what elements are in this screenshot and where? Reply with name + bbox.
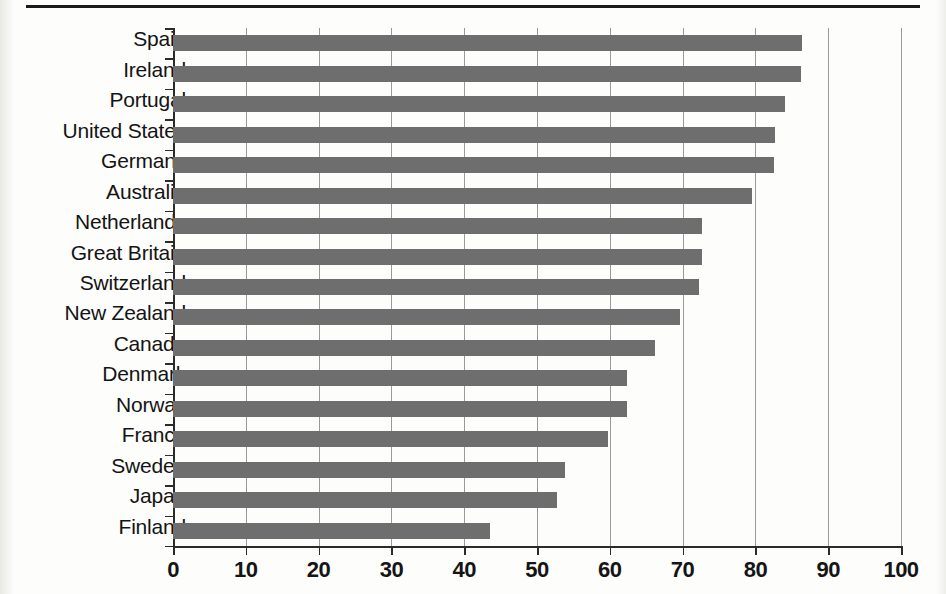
- page-edge-left: [0, 0, 14, 594]
- bar: [173, 431, 608, 447]
- bar: [173, 249, 702, 265]
- x-axis-tick-80: [755, 546, 757, 555]
- x-axis-tick-label-10: 10: [234, 557, 257, 583]
- x-axis-tick-label-60: 60: [598, 557, 621, 583]
- bar: [173, 523, 490, 539]
- x-axis-tick-10: [246, 546, 248, 555]
- x-axis-tick-70: [683, 546, 685, 555]
- bar: [173, 218, 702, 234]
- x-axis-tick-label-100: 100: [883, 557, 918, 583]
- x-axis-tick-60: [610, 546, 612, 555]
- category-label-switzerland: Switzerland: [80, 271, 186, 295]
- gridline-100: [901, 28, 902, 546]
- bar: [173, 188, 752, 204]
- bar: [173, 35, 802, 51]
- bar: [173, 370, 627, 386]
- x-axis-tick-label-40: 40: [452, 557, 475, 583]
- bar: [173, 309, 680, 325]
- x-axis-tick-20: [319, 546, 321, 555]
- x-axis-tick-0: [173, 546, 175, 555]
- top-horizontal-rule: [26, 5, 920, 8]
- x-axis-tick-label-90: 90: [816, 557, 839, 583]
- bar: [173, 127, 775, 143]
- x-axis-tick-label-70: 70: [671, 557, 694, 583]
- bar: [173, 96, 785, 112]
- x-axis-tick-label-50: 50: [525, 557, 548, 583]
- x-axis-tick-label-30: 30: [380, 557, 403, 583]
- category-label-united-states: United States: [63, 119, 186, 143]
- bar: [173, 66, 801, 82]
- plot-area: [173, 28, 901, 546]
- category-label-great-britain: Great Britain: [71, 241, 186, 265]
- x-axis-tick-label-0: 0: [167, 557, 179, 583]
- x-axis-tick-label-80: 80: [744, 557, 767, 583]
- page-edge-right: [936, 0, 946, 594]
- x-axis-tick-30: [391, 546, 393, 555]
- bar: [173, 492, 557, 508]
- bar: [173, 279, 699, 295]
- x-axis-tick-90: [828, 546, 830, 555]
- bar: [173, 401, 627, 417]
- category-label-netherlands: Netherlands: [75, 210, 186, 234]
- bar: [173, 340, 655, 356]
- bar: [173, 462, 565, 478]
- figure-canvas: SpainIrelandPortugalUnited StatesGermany…: [0, 0, 946, 594]
- x-axis-tick-40: [464, 546, 466, 555]
- x-axis-tick-label-20: 20: [307, 557, 330, 583]
- bar: [173, 157, 774, 173]
- category-label-new-zealand: New Zealand: [64, 301, 186, 325]
- gridline-90: [828, 28, 829, 546]
- x-axis-tick-50: [537, 546, 539, 555]
- x-axis-tick-100: [901, 546, 903, 555]
